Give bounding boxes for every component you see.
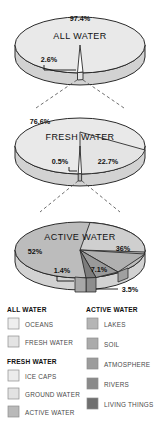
legend-item[interactable]: SOIL [87,338,120,349]
legend-label-lakes: LAKES [104,321,126,328]
pie-active-water-pct-living: 1.4% [54,266,71,275]
legend-label-soil: SOIL [104,341,120,348]
legend-swatch-lakes [87,318,98,329]
pie-fresh-water-second-pct: 22.7% [98,157,119,166]
legend-group-all-water: ALL WATER OCEANS FRESH WATER [7,306,73,347]
pie-fresh-water-minor-pct: 0.5% [52,157,69,166]
legend-item[interactable]: LAKES [87,318,126,329]
legend-column-left: ALL WATER OCEANS FRESH WATER FRESH WATER… [7,306,80,417]
pie-active-water-title: ACTIVE WATER [44,232,115,242]
legend-swatch-ice-caps [8,370,19,381]
legend-swatch-active-water [8,406,19,417]
water-distribution-diagram: 97.4% ALL WATER 2.6% 76.6% FRESH WATER 2… [0,0,160,429]
legend-item[interactable]: ICE CAPS [8,370,56,381]
legend: ALL WATER OCEANS FRESH WATER FRESH WATER… [7,306,153,417]
pie-active-water-depth-b [75,277,86,292]
pie-all-water: 97.4% ALL WATER 2.6% [15,14,145,85]
legend-label-living-things: LIVING THINGS [104,401,153,408]
legend-swatch-rivers [87,378,98,389]
legend-item[interactable]: GROUND WATER [8,388,80,399]
legend-label-oceans: OCEANS [25,321,53,328]
legend-heading-all-water: ALL WATER [7,306,47,313]
legend-swatch-soil [87,338,98,349]
legend-item[interactable]: ACTIVE WATER [8,406,75,417]
legend-heading-active-water: ACTIVE WATER [86,306,138,313]
legend-label-fresh-water: FRESH WATER [25,339,73,346]
legend-label-active-water: ACTIVE WATER [25,409,75,416]
pie-fresh-water: 76.6% FRESH WATER 22.7% 0.5% [15,117,145,186]
legend-label-atmosphere: ATMOSPHERE [104,361,150,368]
legend-group-fresh-water: FRESH WATER ICE CAPS GROUND WATER ACTIVE… [7,358,80,417]
legend-item[interactable]: RIVERS [87,378,129,389]
legend-swatch-atmosphere [87,358,98,369]
legend-label-ice-caps: ICE CAPS [25,373,56,380]
pie-all-water-title: ALL WATER [53,31,106,41]
pie-all-water-major-pct: 97.4% [70,14,91,23]
pie-active-water-pct-atmosphere: 7.1% [91,265,108,274]
legend-item[interactable]: LIVING THINGS [87,398,153,409]
legend-column-right: ACTIVE WATER LAKES SOIL ATMOSPHERE RIVER… [86,306,153,409]
pie-fresh-water-major-pct: 76.6% [30,117,51,126]
pie-active-water-depth-a [86,278,96,293]
pie-all-water-wedge-depth [78,72,84,80]
legend-heading-fresh-water: FRESH WATER [7,358,57,365]
pie-fresh-water-wedge-depth [78,174,81,181]
pie-active-water-left-pct: 52% [28,247,43,256]
pie-fresh-water-title: FRESH WATER [46,132,115,142]
legend-swatch-oceans [8,318,19,329]
legend-swatch-fresh-water [8,336,19,347]
legend-swatch-ground-water [8,388,19,399]
legend-label-rivers: RIVERS [104,381,129,388]
diagram-canvas: 97.4% ALL WATER 2.6% 76.6% FRESH WATER 2… [0,0,160,429]
pie-all-water-minor-pct: 2.6% [41,55,58,64]
pie-active-water-right-pct: 36% [116,244,131,253]
legend-item[interactable]: ATMOSPHERE [87,358,150,369]
legend-swatch-living-things [87,398,98,409]
pie-active-water-pct-rivers: 3.5% [122,285,139,294]
legend-item[interactable]: OCEANS [8,318,53,329]
legend-item[interactable]: FRESH WATER [8,336,73,347]
legend-label-ground-water: GROUND WATER [25,391,80,398]
pie-active-water: ACTIVE WATER 52% 36% 7.1% 1.4% 3.5% [15,222,145,294]
